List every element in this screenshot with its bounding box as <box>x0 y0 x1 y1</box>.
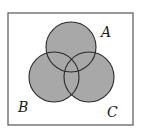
set-label-c: C <box>107 104 118 120</box>
venn-diagram: A B C <box>0 0 141 136</box>
set-label-a: A <box>99 24 111 40</box>
venn-svg: A B C <box>0 0 141 136</box>
set-label-b: B <box>17 99 28 115</box>
